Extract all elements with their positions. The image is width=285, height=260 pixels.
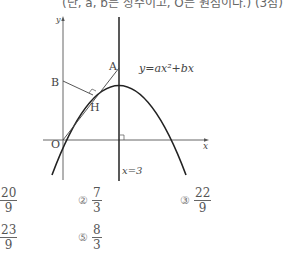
point-h-label: H xyxy=(90,101,100,114)
option-1[interactable]: ① 20 9 xyxy=(0,187,17,214)
denominator: 9 xyxy=(199,201,207,214)
option-fraction: 7 3 xyxy=(92,187,102,214)
numerator: 7 xyxy=(92,187,102,201)
denominator: 3 xyxy=(93,201,101,214)
option-number: ③ xyxy=(180,194,190,207)
curve-equation-label: y=ax²+bx xyxy=(138,62,195,75)
x-axis-label: x xyxy=(203,141,208,151)
segment-bh xyxy=(63,81,93,95)
parabola-figure: y x A B H O y=ax²+bx x=3 xyxy=(0,0,285,260)
option-fraction: 20 9 xyxy=(0,187,17,214)
denominator: 3 xyxy=(93,238,101,251)
point-a-label: A xyxy=(108,60,118,73)
option-4[interactable]: ④ 23 9 xyxy=(0,224,17,251)
numerator: 22 xyxy=(194,187,211,201)
option-number: ⑤ xyxy=(78,231,88,244)
option-fraction: 8 3 xyxy=(92,224,102,251)
option-fraction: 22 9 xyxy=(194,187,211,214)
point-b-label: B xyxy=(51,76,59,89)
numerator: 20 xyxy=(0,187,17,201)
right-angle-mark-h xyxy=(89,89,96,93)
y-axis-label: y xyxy=(55,15,61,24)
option-fraction: 23 9 xyxy=(0,224,17,251)
option-2[interactable]: ② 7 3 xyxy=(78,187,102,214)
numerator: 23 xyxy=(0,224,17,238)
option-number: ② xyxy=(78,194,88,207)
option-5[interactable]: ⑤ 8 3 xyxy=(78,224,102,251)
y-axis-arrow-icon xyxy=(61,16,64,21)
line-equation-label: x=3 xyxy=(122,165,142,176)
denominator: 9 xyxy=(5,201,13,214)
origin-label: O xyxy=(51,138,60,151)
denominator: 9 xyxy=(5,238,13,251)
numerator: 8 xyxy=(92,224,102,238)
option-3[interactable]: ③ 22 9 xyxy=(180,187,211,214)
